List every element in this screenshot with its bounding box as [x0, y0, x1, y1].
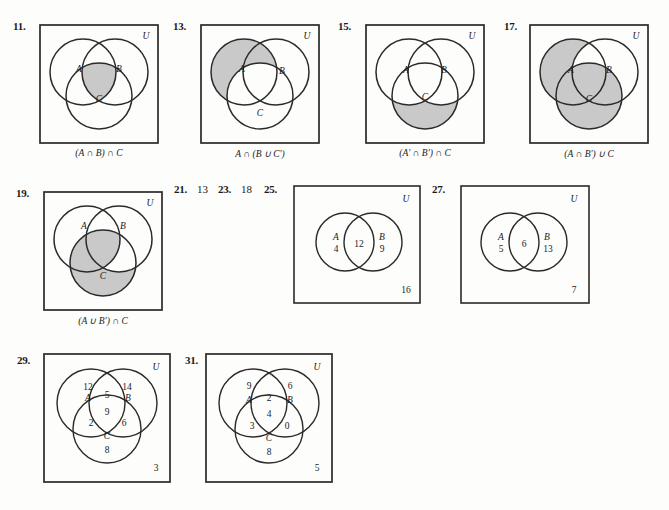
count-c-only: 8	[105, 445, 110, 455]
count-a-only: 4	[334, 244, 339, 254]
set-label-c: C	[586, 94, 593, 104]
universe-label: U	[153, 362, 161, 372]
problem-25-venn-diagram: U A 4 12 B 9 16	[293, 185, 421, 304]
problem-27-number: 27.	[432, 183, 445, 195]
count-intersection: 6	[522, 239, 527, 249]
count-bc-only: 0	[285, 421, 290, 431]
set-label-a: A	[402, 65, 409, 75]
circle-a	[481, 213, 539, 271]
count-a-only: 9	[247, 381, 252, 391]
set-label-c: C	[104, 431, 111, 441]
universe-label: U	[147, 198, 155, 208]
count-intersection: 12	[354, 239, 364, 249]
set-label-c: C	[96, 94, 103, 104]
set-label-a: A	[332, 232, 339, 242]
count-bc-only: 6	[122, 418, 127, 428]
problem-25-number: 25.	[264, 183, 277, 195]
problem-11-number: 11.	[13, 20, 26, 32]
set-label-b: B	[606, 65, 612, 75]
count-c-only: 8	[267, 447, 272, 457]
universe-label: U	[143, 31, 151, 41]
problem-23-answer: 18	[241, 183, 252, 195]
count-b-only: 9	[380, 244, 385, 254]
count-ab-only: 2	[267, 393, 272, 403]
universe-label: U	[314, 362, 322, 372]
count-outside: 5	[315, 463, 320, 473]
set-label-a: A	[238, 64, 245, 74]
problem-19: 19.	[0, 175, 170, 350]
problem-19-number: 19.	[16, 187, 29, 199]
set-label-b: B	[287, 395, 293, 405]
problem-25: 25. U A 4 12 B 9 16	[264, 175, 432, 325]
count-outside: 7	[572, 285, 577, 295]
problem-23-number: 23.	[218, 183, 231, 195]
circle-a	[316, 213, 374, 271]
set-label-b: B	[279, 66, 285, 76]
set-label-a: A	[497, 232, 504, 242]
set-label-b: B	[441, 65, 447, 75]
problem-23: 23. 18	[218, 183, 270, 205]
problem-29: 29. U 12 A 5 14 B 9 2 6 C 8 3	[0, 340, 185, 510]
problem-27: 27. U A 5 6 B 13 7	[432, 175, 612, 325]
set-label-c: C	[266, 433, 273, 443]
problem-31-venn-diagram: U 9 A 2 6 B 4 3 0 C 8 5	[205, 353, 333, 483]
count-b-only: 6	[288, 381, 293, 391]
problem-17-venn-diagram: U A B C	[529, 24, 649, 144]
problem-19-venn-diagram: U A B C	[43, 191, 163, 311]
count-a-only: 12	[83, 382, 93, 392]
count-a-only: 5	[499, 244, 504, 254]
problem-13-number: 13.	[173, 20, 186, 32]
problem-11-venn-diagram: U A B C	[39, 24, 159, 144]
set-label-b: B	[116, 64, 122, 74]
problem-15-venn-diagram: U A B C	[365, 24, 485, 144]
problem-17-caption: (A ∩ B') ∪ C	[529, 148, 649, 159]
universe-label: U	[403, 194, 411, 204]
problem-27-venn-diagram: U A 5 6 B 13 7	[460, 185, 590, 304]
set-label-b: B	[125, 393, 131, 403]
set-label-c: C	[422, 92, 429, 102]
problem-31: 31. U 9 A 2 6 B 4 3 0 C 8 5	[185, 340, 385, 510]
set-label-b: B	[544, 232, 550, 242]
problem-15-number: 15.	[338, 20, 351, 32]
set-label-a: A	[567, 65, 574, 75]
problem-29-venn-diagram: U 12 A 5 14 B 9 2 6 C 8 3	[43, 353, 171, 483]
problem-13-caption: A ∩ (B ∪ C')	[200, 148, 320, 159]
problem-19-caption: (A ∪ B') ∩ C	[43, 315, 163, 326]
problem-21-answer: 13	[197, 183, 208, 195]
count-abc: 9	[105, 407, 110, 417]
set-label-a: A	[84, 393, 91, 403]
count-b-only: 13	[543, 244, 553, 254]
problem-13: 13.	[168, 0, 334, 175]
circle-b	[344, 213, 402, 271]
count-ab-only: 5	[105, 390, 110, 400]
problem-15: 15. U A B C	[334, 0, 500, 175]
problem-17-number: 17.	[504, 20, 517, 32]
count-ac-only: 3	[250, 421, 255, 431]
set-label-a: A	[75, 64, 82, 74]
universe-label: U	[633, 31, 641, 41]
set-label-b: B	[379, 232, 385, 242]
problem-13-venn-diagram: U A B C	[200, 24, 320, 144]
problem-17: 17. U A B	[500, 0, 669, 175]
universe-label: U	[571, 194, 579, 204]
count-outside: 16	[401, 285, 411, 295]
answer-key-page: 11. U A B C	[0, 0, 669, 510]
set-label-b: B	[120, 221, 126, 231]
count-b-only: 14	[122, 382, 132, 392]
universe-label: U	[304, 31, 312, 41]
count-ac-only: 2	[89, 418, 94, 428]
problem-31-number: 31.	[185, 354, 198, 366]
problem-21-number: 21.	[174, 183, 187, 195]
count-outside: 3	[154, 463, 159, 473]
set-label-c: C	[100, 271, 107, 281]
problem-11-caption: (A ∩ B) ∩ C	[39, 148, 159, 158]
set-label-a: A	[80, 221, 87, 231]
circle-b	[509, 213, 567, 271]
set-label-a: A	[245, 395, 252, 405]
set-label-c: C	[257, 108, 264, 118]
problem-11: 11. U A B C	[0, 0, 170, 175]
problem-29-number: 29.	[17, 354, 30, 366]
universe-label: U	[469, 31, 477, 41]
problem-21: 21. 13	[174, 183, 224, 205]
count-abc: 4	[267, 409, 272, 419]
